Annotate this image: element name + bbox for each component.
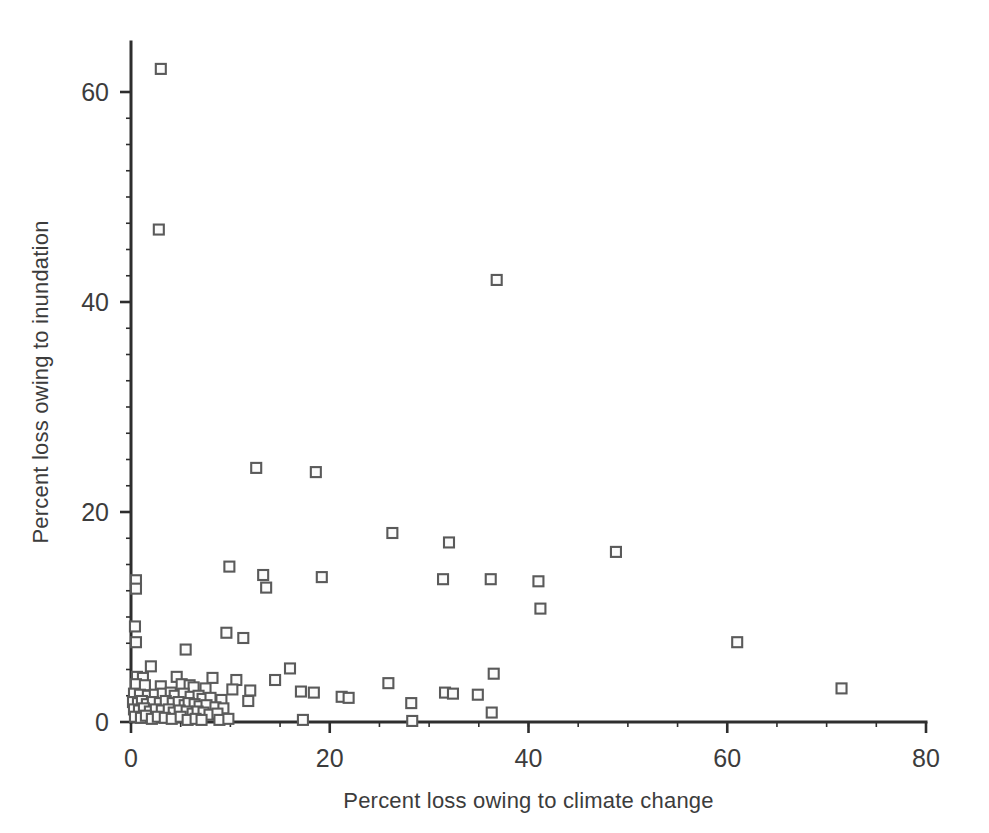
data-point — [227, 684, 237, 694]
data-point — [611, 547, 621, 557]
scatter-plot-figure: 0204060 020406080 Percent loss owing to … — [0, 0, 989, 833]
data-point — [837, 683, 847, 693]
data-point — [448, 689, 458, 699]
data-point — [344, 693, 354, 703]
data-point — [317, 572, 327, 582]
data-point — [238, 633, 248, 643]
data-point — [207, 673, 217, 683]
data-point — [251, 463, 261, 473]
data-point — [258, 570, 268, 580]
data-point — [224, 562, 234, 572]
data-point — [146, 661, 156, 671]
data-point — [407, 716, 417, 726]
data-point — [131, 637, 141, 647]
data-point — [387, 528, 397, 538]
data-point — [181, 645, 191, 655]
x-tick-label: 0 — [124, 744, 138, 772]
data-point — [438, 574, 448, 584]
data-point — [261, 583, 271, 593]
y-tick-label: 20 — [81, 498, 109, 526]
data-point — [309, 688, 319, 698]
x-axis-title: Percent loss owing to climate change — [343, 788, 713, 813]
x-tick-label: 60 — [713, 744, 741, 772]
x-tick-label: 20 — [316, 744, 344, 772]
plot-canvas: 0204060 020406080 Percent loss owing to … — [0, 0, 989, 833]
data-point — [245, 686, 255, 696]
y-tick-label: 0 — [95, 708, 109, 736]
data-point — [156, 64, 166, 74]
data-point — [732, 637, 742, 647]
data-point — [406, 698, 416, 708]
data-point — [487, 708, 497, 718]
data-point — [311, 467, 321, 477]
data-point — [489, 669, 499, 679]
data-point — [154, 225, 164, 235]
data-point — [444, 537, 454, 547]
data-point — [473, 690, 483, 700]
y-axis-title: Percent loss owing to inundation — [28, 220, 53, 543]
data-point — [270, 675, 280, 685]
data-point — [492, 275, 502, 285]
data-point — [197, 715, 207, 725]
x-tick-label: 40 — [515, 744, 543, 772]
data-point — [130, 621, 140, 631]
data-point — [223, 714, 233, 724]
data-point — [298, 715, 308, 725]
data-point — [535, 604, 545, 614]
data-point — [285, 663, 295, 673]
data-point — [221, 628, 231, 638]
y-tick-label: 40 — [81, 288, 109, 316]
data-point — [296, 687, 306, 697]
data-point — [243, 696, 253, 706]
x-tick-label: 80 — [912, 744, 940, 772]
data-point — [533, 576, 543, 586]
data-point — [131, 584, 141, 594]
data-point — [383, 678, 393, 688]
y-tick-label: 60 — [81, 78, 109, 106]
data-point — [486, 574, 496, 584]
